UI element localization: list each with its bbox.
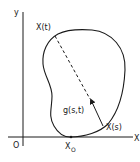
g-st-label: g(s,t): [63, 106, 84, 115]
x0-point: [70, 136, 73, 139]
x-t-label: X(t): [36, 23, 51, 32]
diagram-canvas: y X O X(t) X(s) g(s,t) X O: [0, 0, 140, 162]
dashed-chord: [55, 36, 90, 99]
closed-curve: [43, 30, 125, 137]
x0-label-subscript: O: [71, 146, 76, 153]
x-s-label: X(s): [106, 123, 122, 132]
x-axis-label: X: [134, 134, 140, 143]
y-axis-label: y: [14, 8, 19, 17]
origin-label: O: [13, 141, 19, 150]
vector-arrow: [91, 100, 103, 126]
